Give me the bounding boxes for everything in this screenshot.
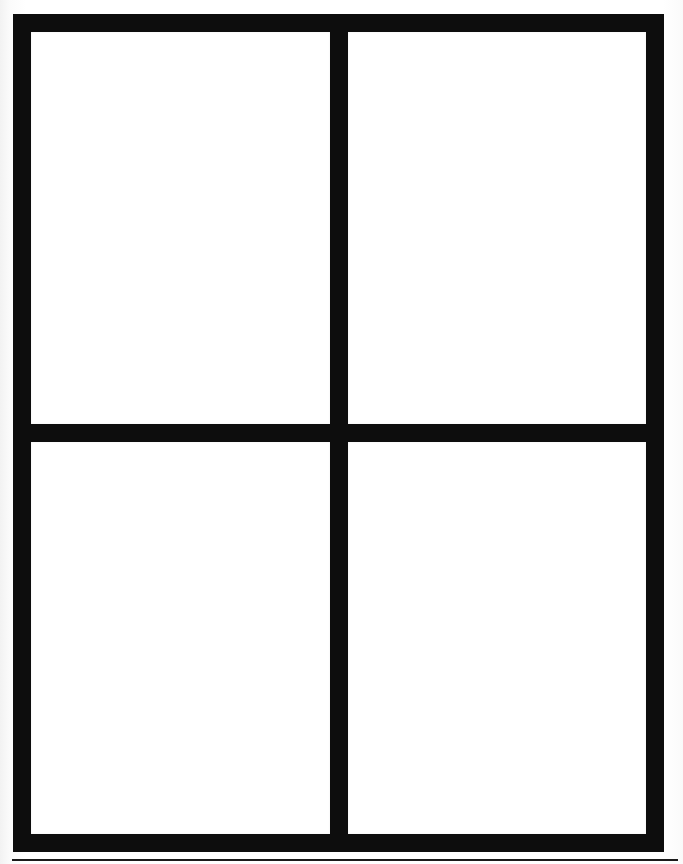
panel-top-right-content <box>348 32 647 424</box>
scanned-page <box>0 0 683 864</box>
panel-bottom-right-content <box>348 442 647 834</box>
panel-top-left-content <box>31 32 330 424</box>
bottom-horizontal-rule <box>12 859 678 861</box>
panel-bottom-left <box>31 442 330 834</box>
panel-bottom-right <box>348 442 647 834</box>
four-panel-grid-frame <box>13 14 664 852</box>
panel-bottom-left-content <box>31 442 330 834</box>
panel-top-left <box>31 32 330 424</box>
panel-top-right <box>348 32 647 424</box>
